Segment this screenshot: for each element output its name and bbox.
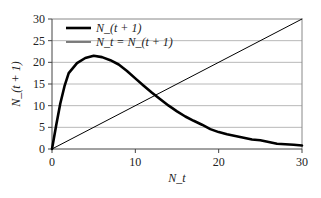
x-tick-label-30: 30 xyxy=(296,155,308,169)
y-axis-ticks: 051015202530 xyxy=(33,12,52,156)
x-tick-label-0: 0 xyxy=(49,155,55,169)
chart: 051015202530 0102030 N_(t + 1) N_t = N_(… xyxy=(0,0,321,198)
y-tick-label-5: 5 xyxy=(39,120,45,134)
y-tick-label-20: 20 xyxy=(33,55,45,69)
legend-label-series-2: N_t = N_(t + 1) xyxy=(95,35,173,49)
x-axis-title: N_t xyxy=(167,171,186,185)
y-tick-label-15: 15 xyxy=(33,77,45,91)
legend-label-series-1: N_(t + 1) xyxy=(95,21,141,35)
y-tick-label-10: 10 xyxy=(33,99,45,113)
x-axis-ticks: 0102030 xyxy=(49,149,308,169)
series-line-1 xyxy=(52,56,302,149)
y-tick-label-25: 25 xyxy=(33,34,45,48)
y-tick-label-30: 30 xyxy=(33,12,45,26)
legend: N_(t + 1) N_t = N_(t + 1) xyxy=(66,21,173,49)
x-tick-label-20: 20 xyxy=(213,155,225,169)
y-axis-title: N_(t + 1) xyxy=(9,61,23,107)
x-tick-label-10: 10 xyxy=(129,155,141,169)
y-tick-label-0: 0 xyxy=(39,142,45,156)
